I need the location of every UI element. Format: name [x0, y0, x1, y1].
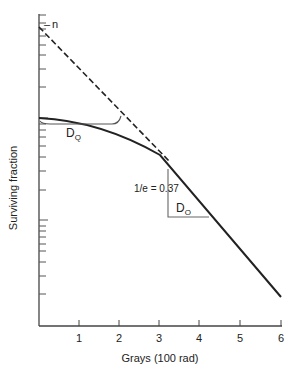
- x-axis-ticks: [79, 320, 281, 326]
- n-dash: –: [44, 18, 51, 30]
- x-tick-labels: 1 2 3 4 5 6: [76, 332, 284, 344]
- x-tick-5: 5: [237, 332, 243, 344]
- x-tick-6: 6: [278, 332, 284, 344]
- extrapolation-dashed-line: [39, 27, 170, 162]
- x-tick-4: 4: [196, 332, 202, 344]
- one-over-e-label: 1/e = 0.37: [134, 183, 179, 194]
- x-tick-2: 2: [116, 332, 122, 344]
- n-label: n: [52, 18, 58, 30]
- x-tick-3: 3: [156, 332, 162, 344]
- x-axis-title: Grays (100 rad): [121, 352, 198, 364]
- x-tick-1: 1: [76, 332, 82, 344]
- y-axis-title: Surviving fraction: [7, 146, 19, 230]
- survival-curve: [39, 118, 281, 297]
- dq-label: DQ: [66, 126, 81, 142]
- y-axis-ticks: [39, 15, 48, 294]
- do-label: DO: [176, 201, 191, 217]
- survival-curve-chart: 1 2 3 4 5 6 Grays (100 rad) Surviving fr…: [0, 0, 294, 373]
